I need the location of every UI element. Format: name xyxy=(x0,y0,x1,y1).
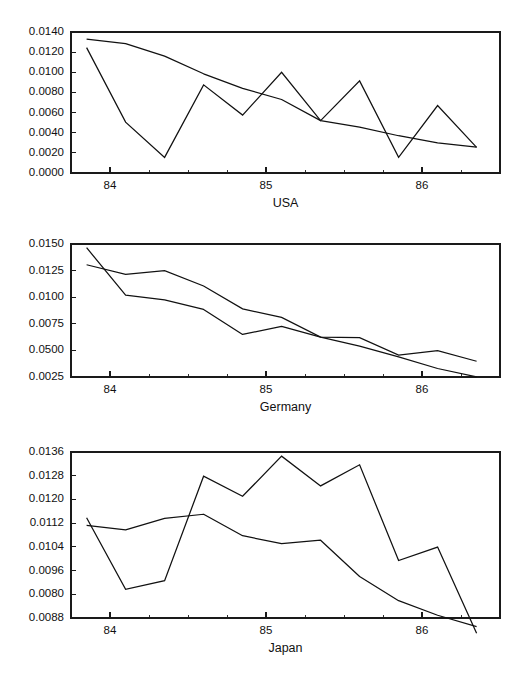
chart-svg-germany: 0.00250.05000.00750.01000.01250.01508485… xyxy=(0,232,526,432)
y-axis-tick-label: 0.0096 xyxy=(29,564,64,576)
figure-canvas: 0.00000.00200.00400.00600.00800.01000.01… xyxy=(0,0,526,688)
y-axis-tick-label: 0.0125 xyxy=(29,264,64,276)
x-axis-tick-label: 84 xyxy=(104,624,117,636)
x-axis-tick-label: 84 xyxy=(104,383,117,395)
x-axis-tick-label: 85 xyxy=(260,624,273,636)
plot-frame xyxy=(71,32,500,173)
panel-caption: Germany xyxy=(260,400,312,414)
chart-panel-usa: 0.00000.00200.00400.00600.00800.01000.01… xyxy=(0,18,526,228)
panel-caption: USA xyxy=(273,196,299,210)
y-axis-tick-label: 0.0100 xyxy=(29,290,64,302)
x-axis-tick-label: 86 xyxy=(416,624,429,636)
series-line-actual xyxy=(87,265,477,362)
y-axis-tick-label: 0.0080 xyxy=(29,85,64,97)
plot-frame xyxy=(71,452,500,618)
chart-svg-usa: 0.00000.00200.00400.00600.00800.01000.01… xyxy=(0,18,526,228)
y-axis-tick-label: 0.0075 xyxy=(29,317,64,329)
y-axis-tick-label: 0.0500 xyxy=(29,343,64,355)
y-axis-tick-label: 0.0120 xyxy=(29,45,64,57)
series-line-actual xyxy=(87,48,477,158)
plot-frame xyxy=(71,244,500,377)
y-axis-tick-label: 0.0060 xyxy=(29,106,64,118)
chart-panel-germany: 0.00250.05000.00750.01000.01250.01508485… xyxy=(0,232,526,432)
y-axis-tick-label: 0.0128 xyxy=(29,469,64,481)
y-axis-tick-label: 0.0080 xyxy=(29,587,64,599)
chart-panel-japan: 0.00880.00800.00960.01040.01120.01200.01… xyxy=(0,438,526,678)
y-axis-tick-label: 0.0088 xyxy=(29,611,64,623)
y-axis-tick-label: 0.0040 xyxy=(29,126,64,138)
x-axis-tick-label: 86 xyxy=(416,383,429,395)
x-axis-tick-label: 84 xyxy=(104,179,117,191)
panel-caption: Japan xyxy=(268,641,302,655)
y-axis-tick-label: 0.0100 xyxy=(29,65,64,77)
y-axis-tick-label: 0.0150 xyxy=(29,237,64,249)
y-axis-tick-label: 0.0120 xyxy=(29,492,64,504)
y-axis-tick-label: 0.0020 xyxy=(29,146,64,158)
y-axis-tick-label: 0.0000 xyxy=(29,166,64,178)
y-axis-tick-label: 0.0112 xyxy=(30,516,64,528)
y-axis-tick-label: 0.0025 xyxy=(29,370,64,382)
y-axis-tick-label: 0.0140 xyxy=(29,25,64,37)
y-axis-tick-label: 0.0136 xyxy=(29,445,64,457)
series-line-actual xyxy=(87,456,477,633)
y-axis-tick-label: 0.0104 xyxy=(29,540,65,552)
series-line-fitted xyxy=(87,514,477,626)
x-axis-tick-label: 85 xyxy=(260,383,273,395)
x-axis-tick-label: 86 xyxy=(416,179,429,191)
chart-svg-japan: 0.00880.00800.00960.01040.01120.01200.01… xyxy=(0,438,526,678)
series-line-fitted xyxy=(87,248,477,377)
x-axis-tick-label: 85 xyxy=(260,179,273,191)
